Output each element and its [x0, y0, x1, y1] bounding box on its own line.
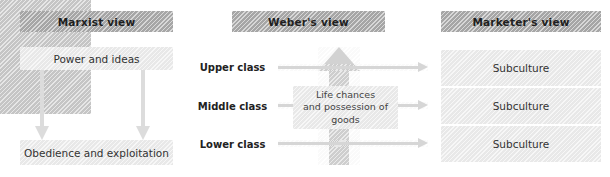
weber-arrow-lower-class — [278, 140, 428, 147]
life-chances-line-1: Life chances — [316, 89, 375, 102]
arrow-shaft — [278, 142, 418, 145]
weber-view-header: Weber's view — [232, 11, 385, 32]
life-chances-line-2: and possession of — [303, 101, 388, 114]
arrow-shaft — [278, 66, 418, 69]
arrow-head-icon — [136, 126, 150, 140]
arrow-head-icon — [418, 62, 428, 72]
marxist-view-header-label: Marxist view — [58, 16, 136, 28]
marxist-down-arrow-right — [136, 70, 150, 140]
marketer-subculture-row-2: Subculture — [441, 88, 601, 124]
marketer-view-header: Marketer's view — [441, 11, 601, 32]
marxist-power-and-ideas-box: Power and ideas — [20, 47, 173, 70]
weber-arrow-upper-class — [278, 64, 428, 71]
arrow-head-icon — [418, 138, 428, 148]
arrow-shaft — [141, 70, 145, 126]
subculture-label: Subculture — [493, 138, 550, 150]
life-chances-line-3: goods — [331, 114, 360, 127]
weber-life-chances-box: Life chances and possession of goods — [293, 86, 398, 129]
arrow-head-icon — [418, 100, 428, 110]
subculture-label: Subculture — [493, 100, 550, 112]
weber-view-header-label: Weber's view — [268, 16, 349, 28]
weber-upper-class-label: Upper class — [187, 59, 278, 75]
weber-lower-class-label: Lower class — [187, 136, 278, 152]
marketer-subculture-row-1: Subculture — [441, 50, 601, 86]
marxist-view-header: Marxist view — [20, 11, 173, 32]
weber-middle-class-label: Middle class — [187, 98, 278, 114]
diagram-canvas: Marxist view Power and ideas Obedience a… — [0, 0, 610, 177]
weber-lower-class-text: Lower class — [200, 139, 266, 150]
arrow-head-icon — [35, 126, 49, 140]
marxist-obedience-label: Obedience and exploitation — [24, 147, 169, 159]
marketer-view-header-label: Marketer's view — [472, 16, 569, 28]
marxist-down-arrow-left — [35, 70, 49, 140]
weber-middle-class-text: Middle class — [198, 101, 267, 112]
weber-upper-class-text: Upper class — [200, 62, 266, 73]
marxist-power-and-ideas-label: Power and ideas — [53, 53, 139, 65]
subculture-label: Subculture — [493, 62, 550, 74]
marketer-subculture-row-3: Subculture — [441, 126, 601, 162]
arrow-shaft — [40, 70, 44, 126]
marxist-obedience-box: Obedience and exploitation — [20, 140, 173, 165]
